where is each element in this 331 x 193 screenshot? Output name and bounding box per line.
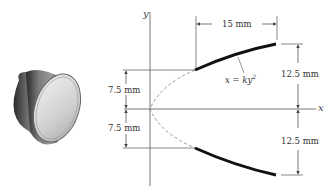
svg-text:15 mm: 15 mm (222, 19, 252, 29)
nozzle-profile-upper (195, 44, 276, 70)
svg-text:7.5 mm: 7.5 mm (108, 85, 140, 95)
svg-text:12.5 mm: 12.5 mm (281, 69, 319, 79)
dimension-12-5mm: 12.5 mm 12.5 mm (281, 44, 319, 175)
x-axis-label: x (318, 102, 324, 113)
diagram-canvas: y x x = ky2 15 mm 7.5 mm 7.5 mm 12.5 mm (0, 0, 331, 193)
nozzle-profile-lower (195, 148, 276, 175)
svg-text:12.5 mm: 12.5 mm (281, 136, 319, 146)
svg-text:7.5 mm: 7.5 mm (108, 123, 140, 133)
equation-leader (238, 57, 244, 73)
cone-illustration (14, 68, 89, 148)
dimension-15mm: 15 mm (196, 16, 277, 68)
equation-label: x = ky2 (225, 73, 256, 85)
y-axis-label: y (142, 8, 149, 19)
